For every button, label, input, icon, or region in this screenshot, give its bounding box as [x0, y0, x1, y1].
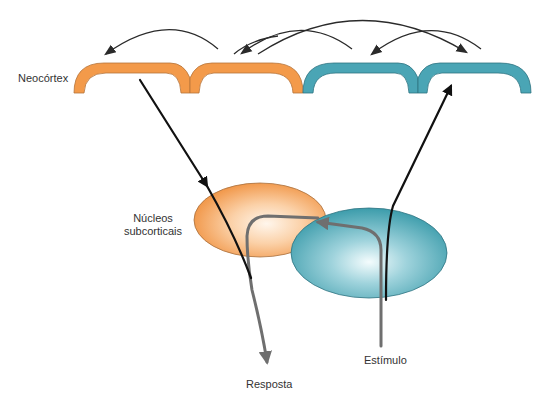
neocortex-orange-arch-1 — [74, 63, 190, 93]
response-label: Resposta — [246, 378, 292, 391]
subcortical-nuclei-label: Núcleos subcorticais — [112, 212, 194, 238]
stimulus-label: Estímulo — [364, 354, 407, 367]
cortico-cortical-arrows — [106, 20, 481, 54]
subcortical-nuclei-label-line1: Núcleos — [112, 212, 194, 225]
black-descending-top — [140, 80, 207, 186]
arrow-far-teal-line — [234, 36, 278, 54]
neocortex-orange-arch-2 — [190, 63, 303, 93]
neocortex-label: Neocórtex — [18, 72, 68, 85]
subcortical-nuclei-label-line2: subcorticais — [112, 225, 194, 238]
subcortical-nucleus-teal — [291, 208, 447, 298]
neocortex-orange — [74, 63, 303, 93]
arrow-orange2-to-orange1 — [106, 30, 218, 54]
neocortex-teal-arch-2 — [418, 63, 531, 93]
neocortex-teal-arch-1 — [303, 63, 418, 93]
neocortex-teal — [303, 63, 531, 93]
basal-ganglia-loop-diagram — [0, 0, 554, 401]
arrow-orange2-to-teal2 — [258, 20, 466, 54]
